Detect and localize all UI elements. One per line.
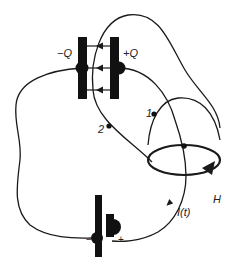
label-loop-H: H (213, 193, 221, 205)
plate-contact-negative (76, 62, 89, 75)
current-arrow-icon (165, 199, 173, 206)
point-2-marker (106, 123, 111, 128)
battery-contact-right (113, 219, 121, 235)
label-battery-minus: − (86, 234, 92, 245)
surface-1-dome (148, 98, 220, 145)
label-negative-charge: −Q (57, 47, 72, 59)
label-current: I(t) (177, 206, 191, 218)
loop-center-marker (181, 143, 187, 149)
battery-plate-short (106, 214, 114, 237)
field-arrow-icon (96, 87, 103, 94)
capacitor-ampere-diagram: −Q +Q 1 2 H I(t) − + (0, 0, 232, 268)
label-point-2: 2 (97, 123, 104, 135)
label-point-1: 1 (146, 107, 152, 119)
electric-field-lines (87, 43, 110, 94)
label-positive-charge: +Q (123, 47, 138, 59)
plate-contact-positive (113, 62, 126, 75)
point-1-marker (151, 111, 156, 116)
battery-contact-left (91, 232, 103, 244)
label-battery-plus: + (118, 234, 124, 245)
field-arrow-icon (96, 65, 103, 72)
battery-plate-long (95, 195, 102, 257)
diagram-canvas: −Q +Q 1 2 H I(t) − + (0, 0, 232, 268)
